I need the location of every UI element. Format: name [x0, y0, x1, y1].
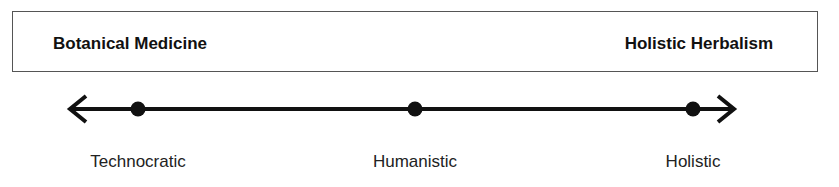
point-label-humanistic: Humanistic: [373, 152, 457, 172]
point-label-holistic: Holistic: [666, 152, 721, 172]
point-humanistic-icon: [408, 102, 423, 117]
point-label-technocratic: Technocratic: [90, 152, 185, 172]
point-holistic-icon: [686, 102, 701, 117]
point-technocratic-icon: [131, 102, 146, 117]
